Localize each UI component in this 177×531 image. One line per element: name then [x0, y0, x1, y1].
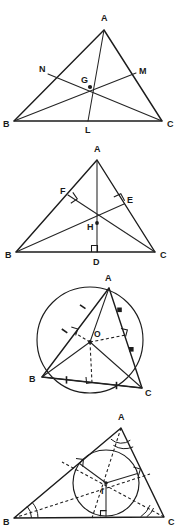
- circumcenter-point: [88, 340, 92, 344]
- incenter-diagram: A B C I: [0, 400, 177, 531]
- panel-incenter: A B C I: [0, 400, 177, 531]
- vertex-label-a: A: [105, 273, 112, 283]
- circumcenter-diagram: A B C O: [0, 267, 177, 400]
- vertex-label-b: B: [29, 374, 36, 384]
- vertex-label-c: C: [168, 517, 175, 527]
- centroid-label-g: G: [81, 75, 88, 85]
- midpoint-label-n: N: [39, 64, 46, 74]
- vertex-label-c: C: [167, 119, 174, 129]
- triangle-abc-outline: [14, 428, 164, 518]
- midpoint-label-l: L: [85, 125, 91, 135]
- panel-centroid: A B C N M L G: [0, 0, 177, 135]
- perp-bisector-o-to-bc-midpoint: [90, 342, 92, 383]
- panel-circumcenter: A B C O: [0, 267, 177, 400]
- vertex-label-c: C: [145, 388, 152, 398]
- orthocenter-point: [95, 221, 99, 225]
- orthocenter-label-h: H: [87, 222, 94, 232]
- circumcircle: [37, 287, 143, 393]
- right-angle-mark-e: [114, 194, 125, 201]
- vertex-label-b: B: [5, 250, 12, 260]
- panel-orthocenter: A B C F E D H: [0, 135, 177, 267]
- tick-mark-ab-2: [62, 329, 68, 333]
- median-b-to-m: [14, 73, 136, 121]
- tick-mark-ac-2: [129, 347, 134, 352]
- angle-arc-b-2: [32, 502, 38, 518]
- midpoint-label-m: M: [139, 66, 147, 76]
- vertex-label-a: A: [101, 13, 108, 23]
- foot-label-e: E: [127, 195, 133, 205]
- orthocenter-diagram: A B C F E D H: [0, 135, 177, 267]
- vertex-label-b: B: [3, 517, 10, 527]
- incenter-point: [104, 481, 108, 485]
- perp-bisector-o-to-ab-midpoint: [75, 333, 90, 342]
- segment-b-to-o: [42, 342, 90, 377]
- vertex-label-c: C: [160, 250, 167, 260]
- vertex-label-a: A: [118, 412, 125, 422]
- median-c-to-n: [48, 74, 162, 121]
- foot-label-f: F: [60, 186, 66, 196]
- altitude-b-to-e: [16, 204, 124, 252]
- incenter-label-i: I: [101, 486, 104, 496]
- inradius-to-ab: [80, 464, 107, 484]
- inradius-to-ac: [106, 474, 138, 484]
- centroid-point: [88, 85, 92, 89]
- vertex-label-b: B: [3, 119, 10, 129]
- vertex-label-a: A: [94, 144, 101, 154]
- foot-label-d: D: [93, 257, 100, 267]
- tick-mark-ab-1: [80, 305, 86, 309]
- angle-arc-b-1: [27, 506, 32, 518]
- angle-bisector-from-b: [14, 474, 150, 518]
- tick-mark-ac-1: [117, 308, 122, 313]
- figure-sheet: A B C N M L G A B: [0, 0, 177, 531]
- triangle-abc-outline: [42, 288, 142, 388]
- circumcenter-label-o: O: [94, 329, 101, 339]
- centroid-diagram: A B C N M L G: [0, 0, 177, 135]
